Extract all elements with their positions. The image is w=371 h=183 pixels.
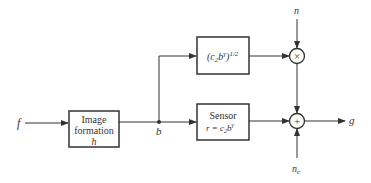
junction-label-b: b <box>156 125 162 137</box>
multiplier-node: × <box>290 49 305 64</box>
sqrt-gain-block: (c2bγ)1/2 <box>197 37 249 74</box>
noise-label-n: n <box>294 5 299 16</box>
sensor-block: Sensor r = c2bγ <box>197 104 249 140</box>
sensor-title: Sensor <box>209 110 237 121</box>
block-label-line: formation <box>74 125 113 136</box>
sensor-equation: r = c2bγ <box>206 122 235 134</box>
image-formation-block-diagram: f Image formation h b (c2bγ)1/2 Sensor r… <box>0 0 371 183</box>
image-formation-block: Image formation h <box>69 111 119 147</box>
input-label-f: f <box>17 116 22 130</box>
noise-label-nc: nc <box>292 163 301 176</box>
output-label-g: g <box>349 114 355 126</box>
adder-node: + <box>290 114 305 129</box>
block-label-line: h <box>92 136 97 147</box>
multiply-symbol: × <box>294 51 300 62</box>
b-to-sqrt-arrow <box>159 56 196 122</box>
add-symbol: + <box>294 115 300 127</box>
block-label-line: Image <box>82 114 108 125</box>
